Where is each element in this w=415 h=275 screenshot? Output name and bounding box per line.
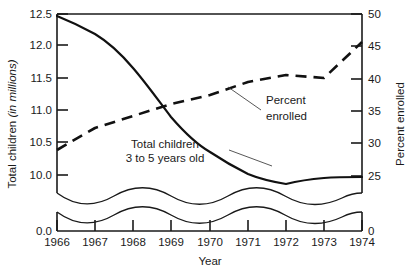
chart-figure: 12.5 12.0 11.5 11.0 10.5 10.0 0.0 50 45 … — [0, 0, 415, 275]
y-tick-label-2: 11.5 — [30, 72, 52, 84]
series-total-children-3-to-5 — [57, 16, 362, 184]
y2-axis-title: Percent enrolled — [394, 82, 406, 166]
y2-tick-label-4: 30 — [368, 137, 381, 149]
leader-line-percent-enrolled — [228, 87, 261, 110]
annotation-percent-enrolled-line-1: enrolled — [266, 110, 307, 122]
x-tick-label-0: 1966 — [44, 236, 70, 248]
y2-tick-label-0: 50 — [368, 8, 381, 20]
y2-axis-title-group: Percent enrolled — [394, 82, 406, 166]
y-tick-label-1: 12.0 — [30, 39, 52, 51]
x-tick-label-7: 1973 — [311, 236, 337, 248]
y-axis-title-group: Total children (in millions) — [6, 59, 18, 188]
annotation-total-children-line-1: 3 to 5 years old — [126, 152, 205, 164]
annotation-total-children: Total children 3 to 5 years old — [126, 138, 205, 164]
y-axis-left-labels: 12.5 12.0 11.5 11.0 10.5 10.0 0.0 — [30, 8, 52, 237]
y-axis-title: Total children (in millions) — [6, 59, 18, 188]
axis-break-indicator — [57, 188, 362, 224]
x-axis-labels: 1966 1967 1968 1969 1970 1971 1972 1973 … — [44, 236, 375, 248]
x-tick-label-4: 1970 — [197, 236, 223, 248]
x-tick-label-8: 1974 — [349, 236, 375, 248]
y-tick-label-4: 10.5 — [30, 136, 52, 148]
y-tick-label-3: 11.0 — [30, 104, 52, 116]
y-tick-label-0: 12.5 — [30, 8, 52, 20]
y-axis-right-ticks — [351, 14, 362, 176]
leader-line-total-children — [229, 150, 272, 166]
x-tick-label-5: 1971 — [235, 236, 261, 248]
plot-frame — [57, 14, 362, 231]
y-axis-left-ticks — [57, 14, 68, 175]
annotation-total-children-line-0: Total children — [131, 138, 199, 150]
annotation-percent-enrolled-line-0: Percent — [266, 94, 306, 106]
x-axis-title: Year — [198, 255, 221, 267]
y-axis-right-labels: 50 45 40 35 30 25 0 — [368, 8, 381, 237]
y2-tick-label-2: 40 — [368, 73, 381, 85]
break-wave-upper — [57, 188, 362, 205]
x-axis-ticks — [57, 220, 362, 231]
chart-svg: 12.5 12.0 11.5 11.0 10.5 10.0 0.0 50 45 … — [0, 0, 415, 275]
x-tick-label-2: 1968 — [120, 236, 146, 248]
y-axis-title-plain: Total children — [6, 118, 18, 189]
y2-tick-label-1: 45 — [368, 40, 381, 52]
y-axis-title-italic: (in millions) — [6, 59, 18, 117]
y2-tick-label-3: 35 — [368, 105, 381, 117]
y2-tick-label-5: 25 — [368, 170, 381, 182]
x-tick-label-3: 1969 — [158, 236, 184, 248]
y-tick-label-5: 10.0 — [30, 169, 52, 181]
x-tick-label-1: 1967 — [82, 236, 108, 248]
annotation-percent-enrolled: Percent enrolled — [266, 94, 307, 122]
series-percent-enrolled — [57, 42, 362, 150]
x-tick-label-6: 1972 — [273, 236, 299, 248]
